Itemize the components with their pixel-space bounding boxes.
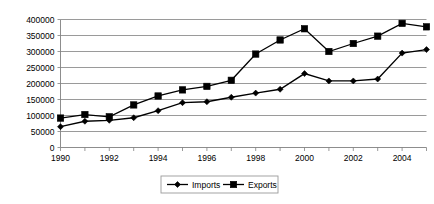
chart-background bbox=[0, 0, 434, 204]
y-axis-tick-label: 150000 bbox=[26, 95, 55, 105]
data-point-exports-2004 bbox=[399, 20, 405, 26]
data-point-exports-1994 bbox=[155, 93, 161, 99]
data-point-exports-2005 bbox=[423, 24, 429, 30]
x-axis-tick-label: 1992 bbox=[100, 153, 119, 163]
chart-legend: ImportsExports bbox=[161, 176, 278, 193]
data-point-exports-2001 bbox=[326, 48, 332, 54]
chart-container: 0500001000001500002000002500003000003500… bbox=[0, 0, 434, 204]
y-axis-tick-label: 100000 bbox=[26, 111, 55, 121]
line-chart: 0500001000001500002000002500003000003500… bbox=[0, 0, 434, 204]
y-axis-tick-label: 0 bbox=[50, 143, 55, 153]
legend-label-imports: Imports bbox=[192, 180, 220, 190]
y-axis-tick-label: 400000 bbox=[26, 15, 55, 25]
x-axis-tick-label: 1996 bbox=[197, 153, 216, 163]
y-axis-tick-label: 350000 bbox=[26, 31, 55, 41]
data-point-exports-1998 bbox=[253, 51, 259, 57]
x-axis-tick-label: 2000 bbox=[295, 153, 314, 163]
legend-marker-exports bbox=[230, 181, 236, 187]
x-axis-tick-label: 1998 bbox=[246, 153, 265, 163]
y-axis-tick-labels: 0500001000001500002000002500003000003500… bbox=[26, 15, 55, 153]
y-axis-tick-label: 50000 bbox=[31, 127, 55, 137]
data-point-exports-1993 bbox=[131, 102, 137, 108]
data-point-exports-1995 bbox=[179, 87, 185, 93]
x-axis-tick-label: 2004 bbox=[393, 153, 412, 163]
legend-label-exports: Exports bbox=[248, 180, 277, 190]
y-axis-tick-label: 250000 bbox=[26, 63, 55, 73]
data-point-exports-1991 bbox=[82, 111, 88, 117]
data-point-exports-1992 bbox=[106, 114, 112, 120]
y-axis-tick-label: 200000 bbox=[26, 79, 55, 89]
data-point-exports-1997 bbox=[228, 77, 234, 83]
x-axis-tick-label: 1994 bbox=[149, 153, 168, 163]
y-axis-tick-label: 300000 bbox=[26, 47, 55, 57]
data-point-exports-1996 bbox=[204, 83, 210, 89]
data-point-exports-1990 bbox=[57, 115, 63, 121]
x-axis-tick-label: 1990 bbox=[51, 153, 70, 163]
data-point-exports-2003 bbox=[375, 33, 381, 39]
data-point-exports-2002 bbox=[350, 40, 356, 46]
x-axis-tick-label: 2002 bbox=[344, 153, 363, 163]
data-point-exports-1999 bbox=[277, 37, 283, 43]
data-point-exports-2000 bbox=[301, 26, 307, 32]
